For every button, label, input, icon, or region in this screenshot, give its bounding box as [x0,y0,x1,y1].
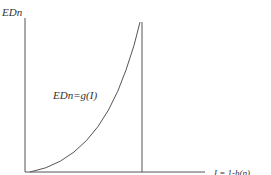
x-axis-label: I = 1-h(p) [213,168,250,175]
diagram: EDn EDn=g(I) I = 1-h(p) [0,0,271,175]
y-axis-label: EDn [1,6,23,18]
curve-label: EDn=g(I) [52,89,97,102]
